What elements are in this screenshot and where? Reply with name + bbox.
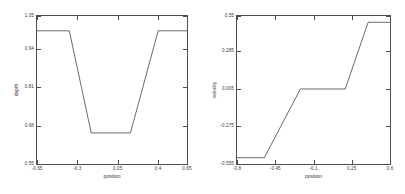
y-tick-mark <box>237 164 241 165</box>
y-tick-mark <box>237 126 241 127</box>
figure-canvas: 0.550.680.810.941.05-0.65-0.30.050.40.65… <box>0 0 405 194</box>
y-tick-mark <box>37 164 41 165</box>
y-tick-mark-right <box>183 87 187 88</box>
y-axis-title-depth: depth <box>14 84 19 97</box>
y-axis-title-velocity: velocity <box>212 82 217 99</box>
x-tick-label-velocity-3: 0.25 <box>347 167 356 172</box>
x-tick-label-depth-1: -0.3 <box>73 167 81 172</box>
x-tick-mark-top <box>37 16 38 20</box>
y-tick-mark-right <box>183 126 187 127</box>
x-tick-label-depth-2: 0.05 <box>113 167 122 172</box>
data-series-velocity <box>237 22 390 157</box>
x-tick-mark <box>187 160 188 164</box>
axes-frame-velocity: -0.555-0.2750.0050.2850.55-0.8-0.45-0.10… <box>236 15 391 165</box>
plot-area-depth <box>37 16 187 164</box>
y-tick-mark <box>37 87 41 88</box>
y-tick-label-velocity-3: 0.285 <box>222 49 234 54</box>
y-tick-mark <box>237 89 241 90</box>
y-tick-mark <box>37 126 41 127</box>
plot-panel-velocity: -0.555-0.2750.0050.2850.55-0.8-0.45-0.10… <box>203 0 405 194</box>
x-tick-mark <box>237 160 238 164</box>
y-tick-mark-right <box>183 164 187 165</box>
x-tick-mark-top <box>275 16 276 20</box>
y-tick-mark-right <box>386 164 390 165</box>
x-axis-title-velocity: position <box>305 174 322 179</box>
x-tick-mark <box>352 160 353 164</box>
y-tick-mark <box>37 49 41 50</box>
y-tick-label-velocity-4: 0.55 <box>225 14 234 19</box>
x-tick-label-velocity-0: -0.8 <box>233 167 241 172</box>
y-tick-label-depth-2: 0.81 <box>25 85 34 90</box>
x-tick-label-depth-4: 0.65 <box>182 167 191 172</box>
x-tick-label-velocity-2: -0.1 <box>309 167 317 172</box>
x-tick-mark <box>37 160 38 164</box>
y-tick-label-velocity-1: -0.275 <box>220 124 234 129</box>
x-tick-mark-top <box>118 16 119 20</box>
axes-frame-depth: 0.550.680.810.941.05-0.65-0.30.050.40.65… <box>36 15 188 165</box>
y-tick-label-velocity-2: 0.005 <box>222 87 234 92</box>
x-tick-mark <box>77 160 78 164</box>
plot-area-velocity <box>237 16 390 164</box>
x-tick-mark <box>275 160 276 164</box>
y-tick-label-depth-4: 1.05 <box>25 14 34 19</box>
y-tick-mark <box>237 51 241 52</box>
x-tick-mark <box>158 160 159 164</box>
x-tick-mark-top <box>390 16 391 20</box>
x-tick-mark <box>390 160 391 164</box>
x-tick-mark-top <box>352 16 353 20</box>
x-tick-label-velocity-4: 0.6 <box>387 167 394 172</box>
x-tick-label-depth-0: -0.65 <box>32 167 43 172</box>
y-tick-mark-right <box>386 51 390 52</box>
x-tick-mark-top <box>314 16 315 20</box>
data-series-depth <box>37 31 187 133</box>
y-tick-mark-right <box>183 49 187 50</box>
y-tick-mark-right <box>386 126 390 127</box>
x-tick-mark-top <box>77 16 78 20</box>
x-tick-mark-top <box>158 16 159 20</box>
y-tick-mark-right <box>386 89 390 90</box>
x-tick-label-velocity-1: -0.45 <box>270 167 281 172</box>
x-axis-title-depth: position <box>103 174 120 179</box>
y-tick-label-depth-3: 0.94 <box>25 46 34 51</box>
y-tick-label-depth-1: 0.68 <box>25 123 34 128</box>
x-tick-mark <box>118 160 119 164</box>
x-tick-mark-top <box>237 16 238 20</box>
x-tick-label-depth-3: 0.4 <box>155 167 162 172</box>
plot-panel-depth: 0.550.680.810.941.05-0.65-0.30.050.40.65… <box>0 0 202 194</box>
x-tick-mark <box>314 160 315 164</box>
x-tick-mark-top <box>187 16 188 20</box>
